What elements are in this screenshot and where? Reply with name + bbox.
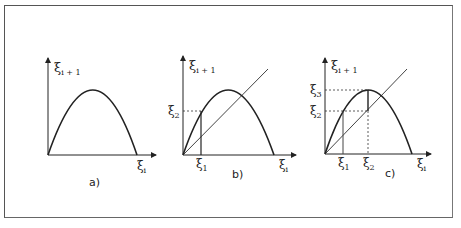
panel-a: ξi + 1 ξi a) — [48, 58, 156, 189]
parabola-curve — [48, 90, 137, 155]
panel-caption: c) — [385, 167, 395, 180]
parabola-curve — [183, 90, 274, 155]
y-axis-label: ξi + 1 — [54, 60, 81, 77]
xi3-label: ξ3 — [310, 83, 322, 99]
x-axis-label: ξi — [417, 157, 427, 173]
panel-caption: b) — [232, 168, 243, 181]
xi2-y-label: ξ2 — [310, 104, 322, 120]
y-axis-label: ξi + 1 — [331, 58, 358, 75]
xi2-x-label: ξ2 — [363, 156, 375, 172]
x-axis-label: ξi — [279, 158, 289, 174]
panel-c: ξi + 1 ξ3 ξ2 ξ1 ξ2 ξi c) — [310, 58, 431, 180]
panel-b: ξi + 1 ξ2 ξ1 ξi b) — [168, 56, 296, 181]
x-axis-label: ξi — [137, 159, 147, 175]
logistic-map-diagram: ξi + 1 ξi a) ξi + 1 ξ2 ξ1 ξi b) ξi + 1 ξ… — [0, 0, 461, 228]
panel-caption: a) — [89, 176, 100, 189]
xi1-label: ξ1 — [338, 156, 350, 172]
xi2-label: ξ2 — [168, 104, 180, 120]
diagonal-line — [325, 69, 407, 154]
xi1-label: ξ1 — [196, 157, 208, 173]
y-axis-label: ξi + 1 — [189, 58, 216, 75]
